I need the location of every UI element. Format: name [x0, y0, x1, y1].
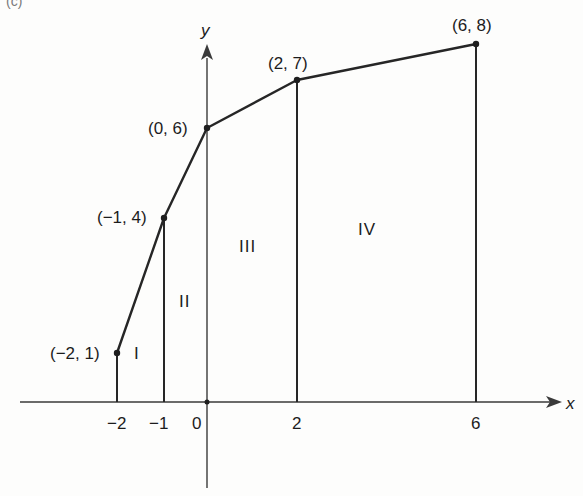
trapezoid-area-diagram: (c) x y (−2, 1) (−1, 4) (0, 6) (2, 7) (6…: [0, 0, 583, 496]
x-tick-neg2: −2: [107, 414, 126, 433]
point-label-6-8: (6, 8): [452, 16, 492, 35]
point-label-0-6: (0, 6): [148, 119, 188, 138]
y-axis-label: y: [200, 21, 211, 40]
point-label-neg1-4: (−1, 4): [97, 208, 147, 227]
point-2-7: [294, 77, 300, 83]
point-label-2-7: (2, 7): [268, 54, 308, 73]
point-neg2-1: [114, 350, 120, 356]
x-axis-label: x: [565, 394, 575, 413]
point-6-8: [473, 41, 479, 47]
x-tick-2: 2: [292, 414, 301, 433]
region-dividers: [117, 44, 476, 402]
origin-point: [205, 400, 210, 405]
region-label-4: IV: [358, 220, 376, 239]
y-axis: y: [200, 21, 213, 488]
point-label-neg2-1: (−2, 1): [50, 344, 100, 363]
region-label-3: III: [239, 237, 256, 256]
region-labels: I II III IV: [134, 220, 376, 363]
point-neg1-4: [161, 215, 167, 221]
region-label-1: I: [134, 344, 140, 363]
x-tick-6: 6: [471, 414, 480, 433]
figure-partial-label: (c): [6, 0, 22, 9]
point-labels: (−2, 1) (−1, 4) (0, 6) (2, 7) (6, 8): [50, 16, 492, 363]
y-axis-arrow-icon: [201, 44, 213, 60]
region-label-2: II: [179, 292, 190, 311]
x-tick-neg1: −1: [149, 414, 168, 433]
x-tick-labels: −2 −1 0 2 6: [107, 414, 480, 433]
x-tick-0: 0: [192, 414, 201, 433]
point-0-6: [204, 125, 210, 131]
